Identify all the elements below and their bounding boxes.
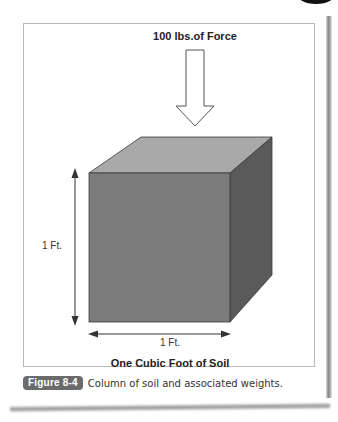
- diagram-title: One Cubic Foot of Soil: [80, 357, 260, 369]
- height-dimension-arrow-icon: [72, 168, 79, 326]
- figure-number-badge: Figure 8-4: [23, 376, 83, 390]
- width-dimension-label: 1 Ft.: [140, 337, 200, 348]
- figure-caption: Figure 8-4 Column of soil and associated…: [23, 375, 283, 391]
- force-arrow-icon: [176, 50, 214, 126]
- caption-text: Column of soil and associated weights.: [88, 378, 283, 389]
- force-label: 100 lbs.of Force: [130, 30, 260, 42]
- cube-front-face: [89, 173, 230, 322]
- soil-cube: [89, 137, 272, 322]
- height-dimension-label: 1 Ft.: [42, 240, 62, 251]
